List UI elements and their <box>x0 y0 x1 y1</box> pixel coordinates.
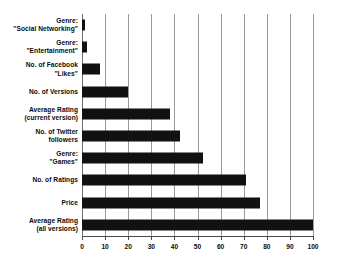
tickmark-40 <box>174 236 175 240</box>
tickmark-30 <box>151 236 152 240</box>
category-label-line: Genre: <box>0 39 78 47</box>
category-label-line: No. of Versions <box>0 88 78 96</box>
tickmark-60 <box>221 236 222 240</box>
x-tick-label: 80 <box>263 242 270 251</box>
x-axis-tickmarks <box>82 236 313 240</box>
bar <box>82 197 260 208</box>
category-label-line: Genre: <box>0 150 78 158</box>
bar <box>82 153 203 164</box>
bar <box>82 108 170 119</box>
bar <box>82 64 100 75</box>
tickmark-0 <box>82 236 83 240</box>
x-tick-label: 20 <box>125 242 132 251</box>
x-tick-label: 60 <box>217 242 224 251</box>
category-label: Average Rating(current version) <box>0 106 78 123</box>
bar <box>82 42 87 53</box>
bar-row <box>82 81 313 103</box>
bar-row <box>82 192 313 214</box>
category-label: Price <box>0 199 78 207</box>
bar-row <box>82 14 313 36</box>
plot-area <box>82 14 313 236</box>
x-axis-tick-labels: 0102030405060708090100 <box>82 242 313 256</box>
bar-row <box>82 169 313 191</box>
category-label-line: "Social Networking" <box>0 25 78 33</box>
bar <box>82 131 180 142</box>
category-label: Genre:"Games" <box>0 150 78 167</box>
bar-row <box>82 36 313 58</box>
tickmark-80 <box>267 236 268 240</box>
gridline-100 <box>313 14 314 236</box>
category-label-line: No. of Twitter <box>0 128 78 136</box>
x-tick-label: 90 <box>286 242 293 251</box>
category-label: No. of Facebook"Likes" <box>0 61 78 78</box>
tickmark-50 <box>198 236 199 240</box>
category-label-line: Price <box>0 199 78 207</box>
bar-rows <box>82 14 313 236</box>
category-label-line: Genre: <box>0 17 78 25</box>
tickmark-90 <box>290 236 291 240</box>
category-label: Genre:"Social Networking" <box>0 17 78 34</box>
category-label-line: No. of Ratings <box>0 176 78 184</box>
bar <box>82 86 128 97</box>
bar <box>82 175 246 186</box>
x-tick-label: 30 <box>148 242 155 251</box>
tickmark-100 <box>313 236 314 240</box>
category-label: No. of Versions <box>0 88 78 96</box>
bar <box>82 219 313 230</box>
x-tick-label: 0 <box>80 242 84 251</box>
bar-row <box>82 125 313 147</box>
x-tick-label: 40 <box>171 242 178 251</box>
tickmark-10 <box>105 236 106 240</box>
x-tick-label: 10 <box>101 242 108 251</box>
x-tick-label: 70 <box>240 242 247 251</box>
category-label: Average Rating(all versions) <box>0 217 78 234</box>
category-label-line: "Likes" <box>0 70 78 78</box>
category-label-line: "Games" <box>0 158 78 166</box>
category-label: No. of Ratings <box>0 176 78 184</box>
category-label: No. of Twitterfollowers <box>0 128 78 145</box>
category-label: Genre:"Entertainment" <box>0 39 78 56</box>
category-label-line: No. of Facebook <box>0 61 78 69</box>
category-label-line: (all versions) <box>0 225 78 233</box>
bar-chart: Genre:"Social Networking"Genre:"Entertai… <box>0 0 344 267</box>
category-label-line: (current version) <box>0 114 78 122</box>
x-tick-label: 50 <box>194 242 201 251</box>
x-tick-label: 100 <box>307 242 318 251</box>
category-label-line: followers <box>0 136 78 144</box>
bar-row <box>82 58 313 80</box>
category-label-line: Average Rating <box>0 217 78 225</box>
bar-row <box>82 103 313 125</box>
category-axis-labels: Genre:"Social Networking"Genre:"Entertai… <box>0 14 78 236</box>
tickmark-70 <box>244 236 245 240</box>
bar <box>82 20 85 31</box>
bar-row <box>82 214 313 236</box>
category-label-line: "Entertainment" <box>0 47 78 55</box>
tickmark-20 <box>128 236 129 240</box>
category-label-line: Average Rating <box>0 106 78 114</box>
bar-row <box>82 147 313 169</box>
